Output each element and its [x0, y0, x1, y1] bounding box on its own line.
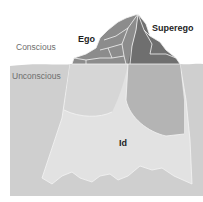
id-label: Id [119, 138, 127, 148]
superego-label: Superego [152, 23, 194, 33]
iceberg-diagram: Conscious Unconscious Ego Superego Id [0, 0, 203, 202]
unconscious-label: Unconscious [12, 71, 61, 81]
ego-label: Ego [78, 34, 96, 44]
conscious-label: Conscious [16, 42, 56, 52]
